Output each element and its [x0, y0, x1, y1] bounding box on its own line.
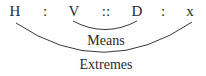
ratio-colon-1: : [43, 4, 47, 19]
proportion-double-colon: :: [102, 4, 110, 19]
extremes-label: Extremes [80, 58, 133, 72]
term-h: H [10, 4, 21, 19]
means-label: Means [87, 34, 124, 48]
term-d: D [132, 4, 143, 19]
term-x: x [186, 4, 194, 19]
means-arc [73, 21, 137, 30]
term-v: V [69, 4, 80, 19]
ratio-colon-2: : [161, 4, 165, 19]
